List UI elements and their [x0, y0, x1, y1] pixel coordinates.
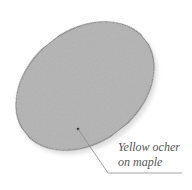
swatch-diagram [0, 0, 192, 190]
callout-label-line1: Yellow ocher [118, 141, 180, 154]
callout-label-line2: on maple [118, 156, 162, 169]
